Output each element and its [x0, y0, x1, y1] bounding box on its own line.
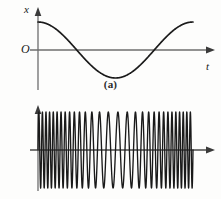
panel-a-x-axis-label: t	[206, 60, 209, 72]
panel-b-y-axis-label: us	[11, 194, 19, 199]
panel-a-origin-label: O	[21, 42, 30, 57]
panel-a-x-axis	[30, 47, 215, 54]
panel-a-modulating-signal: (a) x O t	[0, 0, 221, 100]
panel-a-y-axis-label: x	[24, 3, 29, 15]
panel-b-fm-carrier: (b) us O t	[0, 95, 221, 199]
panel-b-plot	[0, 95, 221, 199]
panel-a-caption: (a)	[0, 78, 221, 90]
figure-root: (a) x O t (b) us O t	[0, 0, 221, 199]
panel-b-y-axis-label-main: u	[11, 194, 17, 199]
